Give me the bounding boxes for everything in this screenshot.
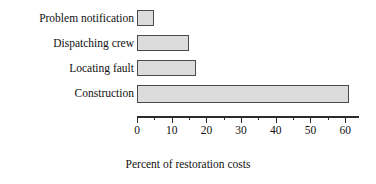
x-tick-major-10	[172, 116, 173, 123]
x-tick-major-20	[206, 116, 207, 123]
x-tick-label-60: 60	[332, 124, 358, 137]
x-tick-major-30	[241, 116, 242, 123]
x-tick-label-40: 40	[263, 124, 289, 137]
x-tick-major-60	[345, 116, 346, 123]
category-label-problem-notification: Problem notification	[2, 12, 134, 24]
bar-problem-notification	[137, 10, 154, 26]
category-label-construction: Construction	[2, 87, 134, 99]
x-tick-minor-45	[293, 116, 294, 120]
bar-dispatching-crew	[137, 35, 189, 51]
x-tick-minor-15	[189, 116, 190, 120]
bar-locating-fault	[137, 60, 196, 76]
x-tick-label-10: 10	[159, 124, 185, 137]
category-label-dispatching-crew: Dispatching crew	[2, 37, 134, 49]
bar-construction	[137, 85, 349, 103]
plot-area	[137, 0, 359, 112]
x-tick-minor-5	[154, 116, 155, 120]
x-tick-label-0: 0	[124, 124, 150, 137]
x-tick-major-40	[276, 116, 277, 123]
x-axis	[137, 116, 359, 118]
x-axis-title: Percent of restoration costs	[0, 158, 376, 170]
x-tick-minor-25	[224, 116, 225, 120]
x-tick-label-30: 30	[228, 124, 254, 137]
x-tick-major-0	[137, 116, 138, 123]
x-tick-minor-55	[328, 116, 329, 120]
x-tick-minor-35	[258, 116, 259, 120]
bar-chart: Problem notification Dispatching crew Lo…	[0, 0, 376, 184]
x-tick-major-50	[310, 116, 311, 123]
x-tick-label-20: 20	[193, 124, 219, 137]
x-tick-label-50: 50	[297, 124, 323, 137]
category-label-locating-fault: Locating fault	[2, 62, 134, 74]
